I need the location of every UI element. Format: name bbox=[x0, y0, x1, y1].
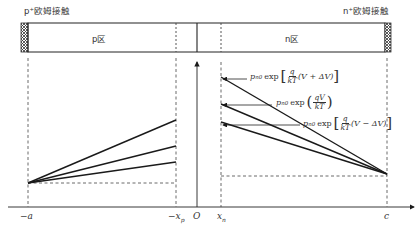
tick-neg-a: −a bbox=[20, 211, 33, 221]
eq-arg: (V + ΔV) bbox=[298, 72, 333, 81]
eq-open: [ bbox=[334, 116, 340, 131]
p-ohmic-contact-hatch bbox=[21, 23, 28, 52]
eq-fn: exp bbox=[317, 119, 331, 128]
n-region-label: n区 bbox=[285, 32, 299, 44]
eq-sub: n0 bbox=[308, 121, 315, 127]
x-axis bbox=[8, 62, 414, 207]
eq-den: kT bbox=[287, 77, 297, 85]
pn-junction-diagram bbox=[0, 0, 420, 228]
p-region-label: p区 bbox=[92, 32, 106, 44]
p-side-profiles bbox=[28, 120, 176, 183]
tick-c: c bbox=[384, 211, 389, 221]
eq-close: ] bbox=[386, 116, 392, 131]
eq-sub: n0 bbox=[255, 74, 262, 80]
tick-xn-sub: n bbox=[222, 216, 226, 223]
eq-arg: (V − ΔV) bbox=[351, 119, 386, 128]
eq-den: kT bbox=[340, 124, 350, 132]
eq-close: ] bbox=[333, 69, 339, 84]
tick-neg-xp-main: −x bbox=[168, 211, 181, 221]
eq-fraction: qkT bbox=[287, 68, 297, 85]
p-ohmic-contact-label: p⁺欧姆接触 bbox=[24, 4, 70, 16]
eq-fn: exp bbox=[290, 98, 304, 107]
eq-den: kT bbox=[315, 103, 325, 111]
tick-neg-xp-sub: p bbox=[181, 216, 185, 223]
tick-xn: xn bbox=[217, 211, 226, 223]
eq-fraction: qVkT bbox=[313, 94, 325, 111]
device-bar bbox=[21, 23, 391, 52]
eq-sub: n0 bbox=[281, 100, 288, 106]
eq-close: ) bbox=[327, 95, 333, 110]
n-ohmic-contact-hatch bbox=[385, 23, 391, 52]
equation-v-plus-dv: pn0 exp [ qkT (V + ΔV) ] bbox=[250, 68, 339, 85]
equation-v: pn0 exp ( qVkT ) bbox=[276, 94, 332, 111]
eq-fraction: qkT bbox=[340, 115, 350, 132]
eq-open: ( bbox=[307, 95, 313, 110]
equation-v-minus-dv: pn0 exp [ qkT (V − ΔV) ] bbox=[303, 115, 392, 132]
n-ohmic-contact-label: n⁺欧姆接触 bbox=[343, 4, 389, 16]
eq-open: [ bbox=[281, 69, 287, 84]
tick-neg-xp: −xp bbox=[168, 211, 184, 223]
tick-origin: O bbox=[193, 211, 200, 221]
eq-fn: exp bbox=[264, 72, 278, 81]
